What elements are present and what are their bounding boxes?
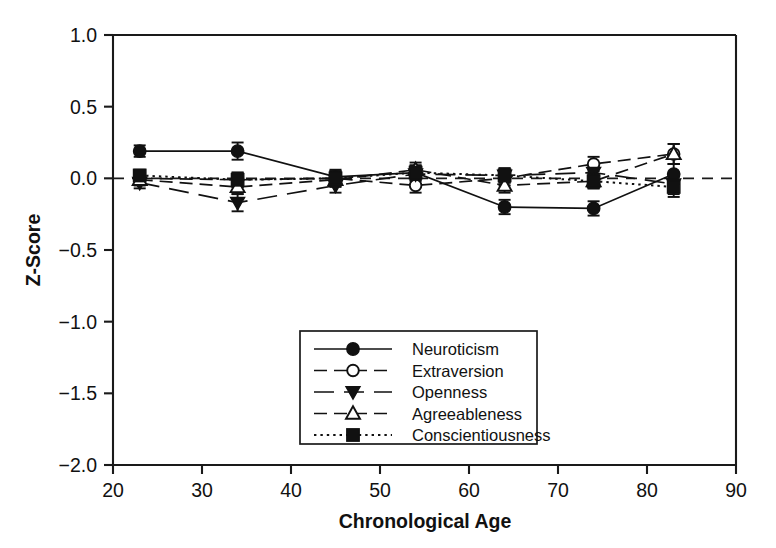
chart-figure: 2030405060708090 1.00.50.0−0.5−1.0−1.5−2… — [0, 0, 776, 548]
series-markers-group — [133, 145, 681, 215]
y-tick-label: −1.0 — [59, 311, 98, 333]
x-tick-label: 40 — [280, 479, 302, 501]
legend-label: Openness — [412, 383, 487, 401]
y-tick-label: 0.0 — [70, 167, 97, 189]
legend-label: Conscientiousness — [412, 426, 551, 444]
legend-marker-filled-circle — [347, 343, 359, 355]
legend-item-conscientiousness[interactable]: Conscientiousness — [314, 426, 551, 444]
datapoint-openness — [231, 198, 245, 210]
legend-label: Agreeableness — [412, 405, 522, 423]
legend-label: Neuroticism — [412, 340, 499, 358]
x-tick-label: 80 — [636, 479, 658, 501]
datapoint-conscientiousness — [498, 169, 510, 181]
datapoint-conscientiousness — [329, 172, 341, 184]
legend-marker-open-circle — [347, 365, 359, 377]
x-tick-label: 60 — [458, 479, 480, 501]
x-tick-label: 70 — [547, 479, 569, 501]
y-tick-label: 1.0 — [70, 24, 97, 46]
datapoint-neuroticism — [134, 145, 146, 157]
x-axis-ticks — [113, 465, 736, 474]
legend-label: Extraversion — [412, 362, 504, 380]
x-axis-tick-labels: 2030405060708090 — [102, 479, 747, 501]
datapoint-conscientiousness — [409, 166, 421, 178]
datapoint-conscientiousness — [231, 174, 243, 186]
datapoint-conscientiousness — [587, 175, 599, 187]
x-tick-label: 30 — [191, 479, 213, 501]
datapoint-neuroticism — [498, 201, 510, 213]
x-tick-label: 90 — [725, 479, 747, 501]
datapoint-conscientiousness — [668, 181, 680, 193]
y-tick-label: −2.0 — [59, 454, 98, 476]
x-axis-title: Chronological Age — [339, 510, 512, 532]
datapoint-conscientiousness — [134, 169, 146, 181]
y-axis-tick-labels: 1.00.50.0−0.5−1.0−1.5−2.0 — [59, 24, 98, 476]
datapoint-neuroticism — [587, 202, 599, 214]
chart-legend: NeuroticismExtraversionOpennessAgreeable… — [300, 331, 551, 444]
x-tick-label: 50 — [369, 479, 391, 501]
y-tick-label: −1.5 — [59, 382, 98, 404]
y-axis-title: Z-Score — [22, 214, 44, 287]
y-tick-label: −0.5 — [59, 239, 98, 261]
y-tick-label: 0.5 — [70, 96, 97, 118]
x-tick-label: 20 — [102, 479, 124, 501]
datapoint-neuroticism — [231, 145, 243, 157]
y-axis-ticks — [104, 35, 113, 465]
z-score-by-age-line-chart: 2030405060708090 1.00.50.0−0.5−1.0−1.5−2… — [0, 0, 776, 548]
legend-marker-filled-square — [347, 429, 359, 441]
